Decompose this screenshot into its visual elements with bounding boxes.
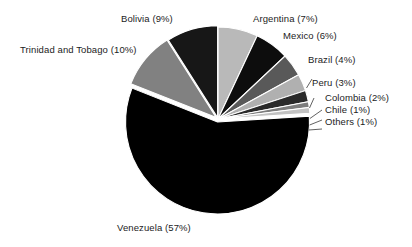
pie-label-colombia: Colombia (2%) xyxy=(325,92,389,103)
pie-slices xyxy=(126,26,310,214)
leader-line-peru xyxy=(310,98,315,108)
pie-label-venezuela: Venezuela (57%) xyxy=(117,222,191,233)
pie-label-mexico: Mexico (6%) xyxy=(283,30,337,41)
pie-label-trinidad-and-tobago: Trinidad and Tobago (10%) xyxy=(20,44,137,55)
pie-label-brazil: Brazil (4%) xyxy=(308,54,356,65)
leader-line-colombia xyxy=(310,110,322,119)
pie-label-others: Others (1%) xyxy=(325,116,377,127)
pie-chart-figure: Bolivia (9%) Argentina (7%) Mexico (6%) … xyxy=(0,0,412,247)
pie-label-argentina: Argentina (7%) xyxy=(253,13,318,24)
leader-line-chile xyxy=(310,120,322,125)
pie-label-bolivia: Bolivia (9%) xyxy=(121,13,173,24)
pie-label-peru: Peru (3%) xyxy=(312,77,356,88)
pie-label-chile: Chile (1%) xyxy=(325,104,370,115)
leader-line-others xyxy=(309,129,322,130)
